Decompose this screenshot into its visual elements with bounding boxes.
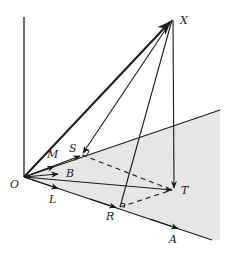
label-R: R: [105, 210, 114, 223]
vector-diagram: X O M S B L T R A: [0, 0, 229, 256]
label-X: X: [179, 14, 189, 27]
label-S: S: [69, 142, 77, 155]
label-M: M: [46, 148, 59, 161]
label-L: L: [48, 193, 56, 206]
label-A: A: [168, 233, 177, 246]
label-B: B: [65, 167, 74, 180]
label-O: O: [10, 178, 19, 191]
plane-region: [24, 110, 220, 240]
